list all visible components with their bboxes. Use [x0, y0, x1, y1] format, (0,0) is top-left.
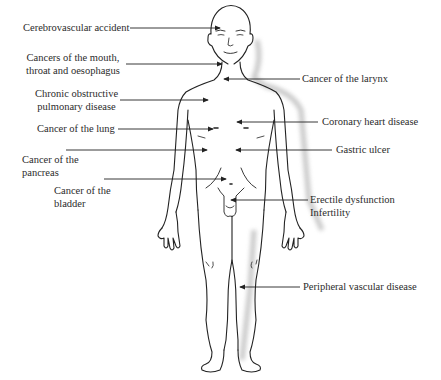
label-copd: Chronic obstructive pulmonary disease [35, 88, 118, 113]
label-cancer-of-the-lung: Cancer of the lung [37, 123, 115, 136]
label-text: Cancer of the larynx [302, 73, 388, 84]
label-cerebrovascular-accident: Cerebrovascular accident [23, 22, 129, 35]
label-text: Peripheral vascular disease [303, 281, 417, 292]
label-cancer-of-the-pancreas: Cancer of the pancreas [22, 154, 79, 179]
label-erectile-dysfunction-infertility: Erectile dysfunction Infertility [310, 194, 395, 219]
label-text: Cancer of the [54, 185, 111, 198]
label-cancer-of-the-bladder: Cancer of the bladder [54, 185, 111, 210]
label-text: pancreas [22, 167, 79, 180]
label-cancers-mouth-throat-oesophagus: Cancers of the mouth, throat and oesopha… [26, 52, 120, 77]
label-gastric-ulcer: Gastric ulcer [336, 144, 390, 157]
label-text: Erectile dysfunction [310, 194, 395, 207]
label-text: Cancer of the [22, 154, 79, 167]
label-text: Gastric ulcer [336, 144, 390, 155]
body-outline [158, 6, 304, 373]
label-cancer-of-the-larynx: Cancer of the larynx [302, 73, 388, 86]
label-text: Cancer of the lung [37, 123, 115, 134]
label-text: pulmonary disease [35, 101, 118, 114]
label-text: throat and oesophagus [26, 65, 120, 78]
label-text: Cancers of the mouth, [26, 52, 120, 65]
label-text: Cerebrovascular accident [23, 22, 129, 33]
label-text: Coronary heart disease [322, 116, 418, 127]
head [208, 6, 253, 65]
anatomical-diagram: Cerebrovascular accident Cancers of the … [0, 0, 441, 380]
label-text: Infertility [310, 207, 395, 220]
label-peripheral-vascular-disease: Peripheral vascular disease [303, 281, 417, 294]
label-text: Chronic obstructive [35, 88, 118, 101]
label-text: bladder [54, 198, 111, 211]
label-coronary-heart-disease: Coronary heart disease [322, 116, 418, 129]
